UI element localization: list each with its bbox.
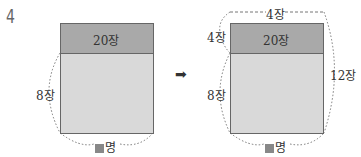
right-bottom-rect	[230, 54, 324, 134]
left-side-label: 8장	[36, 86, 55, 103]
right-left-top-label: 4장	[207, 28, 226, 45]
blank-square-icon	[95, 144, 104, 153]
blank-square-icon	[265, 144, 274, 153]
right-over-top-label: 4장	[266, 5, 285, 22]
right-top-label: 20장	[263, 31, 289, 48]
left-top-label: 20장	[93, 31, 119, 48]
right-left-bottom-label: 8장	[207, 86, 226, 103]
right-arrow-icon: ➡	[175, 66, 187, 82]
right-bottom-label: 명	[265, 138, 286, 155]
left-bottom-rect	[60, 54, 154, 134]
right-side-label: 12장	[330, 66, 356, 83]
left-bottom-label: 명	[95, 138, 116, 155]
